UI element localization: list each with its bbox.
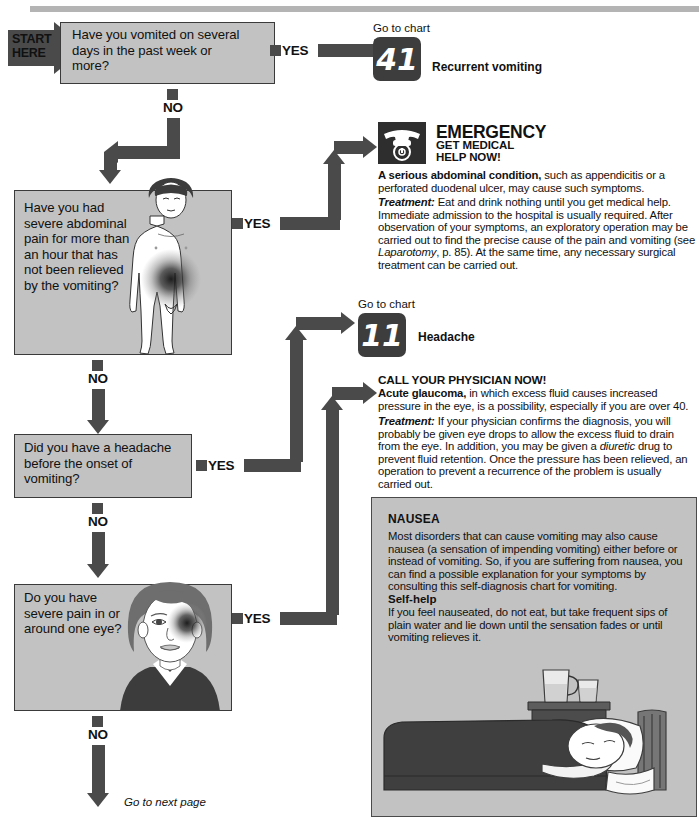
question-q3-text: Did you have a headache before the onset… [24,440,184,487]
chart-badge-41[interactable]: 41 [373,37,421,81]
connector-q3-no-arrowhead [87,564,109,578]
emergency-subtitle: GET MEDICAL HELP NOW! [436,140,514,164]
emergency-treatment-italic: Laparotomy [378,246,436,258]
connector-q2-no-arrowhead [87,420,109,434]
physician-treatment-label: Treatment: [378,415,435,427]
go-to-chart-label-41: Go to chart [373,22,430,34]
emergency-cause-paragraph: A serious abdominal condition, such as a… [378,169,696,194]
chart-badge-11[interactable]: 11 [358,313,406,357]
connector-q4-yes-h2 [332,387,364,400]
yes-label-q3: YES [208,458,234,473]
connector-q2-yes-h2 [334,141,364,154]
connector-q3-no-vert [92,532,105,566]
no-marker-q2 [92,360,103,371]
connector-q4-yes-arrowhead [363,382,377,404]
yes-label-q2: YES [244,216,270,231]
yes-marker-q3 [196,460,207,471]
top-rule [30,6,699,12]
connector-q2-no-vert [92,389,105,422]
go-to-next-page-label: Go to next page [124,796,206,808]
abdominal-pain-figure [106,176,236,361]
yes-marker-q2 [232,218,243,229]
physician-cause-paragraph: Acute glaucoma, in which excess fluid ca… [378,387,696,412]
connector-q2-yes-arrowhead [363,136,377,158]
yes-label-q1: YES [282,43,308,58]
no-label-q3: NO [88,514,108,529]
no-marker-q1 [167,89,178,100]
yes-marker-q1 [270,45,281,56]
nausea-title: NAUSEA [388,512,440,526]
start-line1: START [12,32,51,46]
no-marker-q3 [92,503,103,514]
physician-title: CALL YOUR PHYSICIAN NOW! [378,374,696,387]
chart-name-11: Headache [418,330,475,344]
sleeping-person-illustration [380,650,688,808]
emergency-treatment-paragraph: Treatment: Eat and drink nothing until y… [378,196,696,272]
nausea-selfhelp-title: Self-help [388,593,437,605]
emergency-phone-icon [378,122,426,164]
emergency-subtitle-line2: HELP NOW! [436,151,501,163]
connector-q2-yes-vert [328,164,341,220]
connector-q4-no-arrowhead [87,793,109,807]
no-label-q1: NO [163,100,183,115]
start-line2: HERE [12,46,46,60]
eye-pain-face-figure [108,578,232,711]
nausea-body: Most disorders that can cause vomiting m… [388,530,684,593]
connector-q4-no-vert [92,745,105,795]
emergency-treatment-label: Treatment: [378,196,435,208]
emergency-cause-bold: A serious abdominal condition, [378,169,541,181]
no-label-q2: NO [88,371,108,386]
emergency-subtitle-line1: GET MEDICAL [436,139,514,151]
connector-q1-no-horiz [118,146,180,159]
question-q1-text: Have you vomited on several days in the … [72,27,252,74]
nausea-selfhelp-body: If you feel nauseated, do not eat, but t… [388,606,684,644]
physician-cause-bold: Acute glaucoma, [378,387,466,399]
chart-name-41: Recurrent vomiting [432,60,542,74]
physician-treatment-italic: diuretic [600,440,635,452]
yes-label-q4: YES [244,611,270,626]
connector-q1-yes [318,44,375,57]
connector-q3-yes-arrowhead [341,312,355,334]
connector-q3-yes-vert [290,340,303,462]
connector-q4-yes-vert [326,410,339,615]
go-to-chart-label-11: Go to chart [358,298,415,310]
no-label-q4: NO [88,727,108,742]
physician-treatment-paragraph: Treatment: If your physician confirms th… [378,415,696,491]
connector-q3-yes-h2 [296,317,342,330]
yes-marker-q4 [232,613,243,624]
no-marker-q4 [92,716,103,727]
connector-q1-no-vert2 [104,152,117,172]
